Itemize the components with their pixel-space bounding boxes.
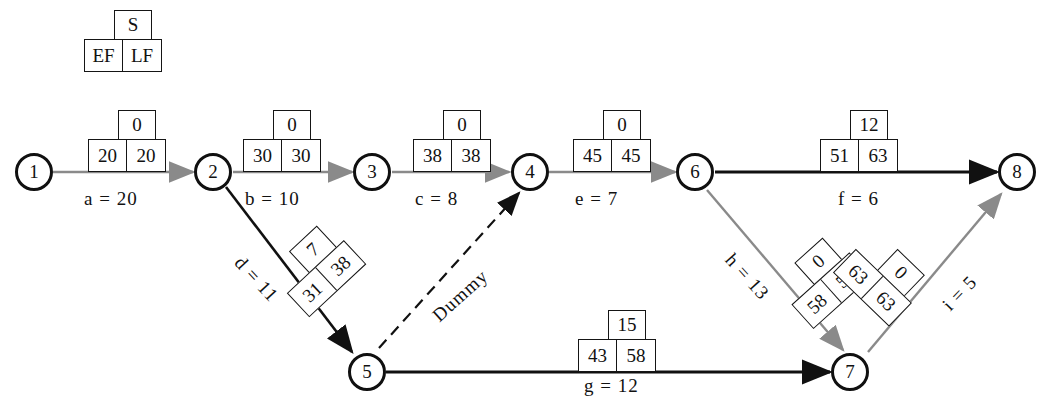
box-b-ef: 30 (244, 140, 282, 171)
cpm-network-diagram: S EF LF 0 20 20 0 30 30 0 38 38 0 45 45 (0, 0, 1054, 418)
box-e-ef: 45 (574, 140, 612, 171)
node-1-label: 1 (29, 161, 39, 183)
box-g-s: 15 (608, 310, 646, 340)
node-6[interactable]: 6 (676, 153, 714, 191)
box-a-row: 20 20 (88, 139, 166, 172)
box-e-s: 0 (603, 110, 641, 140)
edge-dummy (379, 193, 519, 348)
box-f-row: 51 63 (820, 139, 898, 172)
node-8-label: 8 (1012, 161, 1022, 183)
edge-label-e: e = 7 (575, 188, 618, 210)
box-a-s: 0 (118, 110, 156, 140)
box-b-lf: 30 (282, 140, 320, 171)
node-3[interactable]: 3 (353, 153, 391, 191)
node-5-label: 5 (362, 361, 372, 383)
box-f-lf: 63 (859, 140, 897, 171)
box-a-ef: 20 (89, 140, 127, 171)
legend-ef-cell: EF (85, 40, 123, 71)
edge-label-g: g = 12 (584, 375, 639, 397)
legend-s-cell: S (114, 10, 152, 40)
node-5[interactable]: 5 (348, 353, 386, 391)
node-4-label: 4 (525, 161, 535, 183)
edge-label-a: a = 20 (84, 188, 138, 210)
node-2[interactable]: 2 (194, 153, 232, 191)
legend-lf-cell: LF (123, 40, 161, 71)
box-e-row: 45 45 (573, 139, 651, 172)
node-3-label: 3 (367, 161, 377, 183)
node-7-label: 7 (845, 361, 855, 383)
box-c-row: 38 38 (413, 139, 491, 172)
box-c-s: 0 (443, 110, 481, 140)
box-b-row: 30 30 (243, 139, 321, 172)
box-a-lf: 20 (127, 140, 165, 171)
box-f-ef: 51 (821, 140, 859, 171)
node-1[interactable]: 1 (15, 153, 53, 191)
box-g-lf: 58 (617, 340, 655, 371)
box-f-s: 12 (850, 110, 888, 140)
node-6-label: 6 (690, 161, 700, 183)
box-c-ef: 38 (414, 140, 452, 171)
node-8[interactable]: 8 (998, 153, 1036, 191)
node-7[interactable]: 7 (831, 353, 869, 391)
box-c-lf: 38 (452, 140, 490, 171)
box-e-lf: 45 (612, 140, 650, 171)
box-g-row: 43 58 (578, 339, 656, 372)
edge-label-f: f = 6 (838, 188, 879, 210)
legend-ef-lf-row: EF LF (84, 39, 162, 72)
box-b-s: 0 (273, 110, 311, 140)
node-2-label: 2 (208, 161, 218, 183)
edge-label-b: b = 10 (245, 188, 300, 210)
node-4[interactable]: 4 (511, 153, 549, 191)
box-g-ef: 43 (579, 340, 617, 371)
edge-label-c: c = 8 (415, 188, 458, 210)
